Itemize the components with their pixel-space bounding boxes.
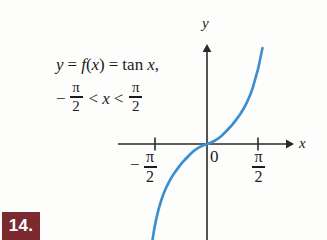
y-axis-label: y xyxy=(202,15,209,32)
domain-right-fraction: π 2 xyxy=(129,80,142,114)
tick-left-fraction: π 2 xyxy=(144,149,157,185)
tick-right-fraction: π 2 xyxy=(252,149,265,185)
equation-comma: , xyxy=(155,56,159,73)
equation-arg-x: x xyxy=(92,56,100,73)
plot-svg xyxy=(0,0,327,240)
equation-y: y xyxy=(56,56,64,73)
tick-left-numerator: π xyxy=(144,149,156,166)
equation-tan: tan xyxy=(122,56,143,73)
domain-left-numerator: π xyxy=(70,80,82,96)
equation-paren-close: ) xyxy=(99,56,105,73)
figure-container: y = f ( x ) = tan x , − π 2 < x < π 2 xyxy=(0,0,327,240)
equation-tan-arg: x xyxy=(147,56,155,73)
tick-left-denominator: 2 xyxy=(144,168,156,185)
domain-less-than-1: < xyxy=(89,90,99,107)
origin-label: 0 xyxy=(210,147,219,167)
equation-equals-2: = xyxy=(109,56,119,73)
domain-less-than-2: < xyxy=(114,90,124,107)
domain-variable: x xyxy=(102,90,110,107)
domain-left-fraction: π 2 xyxy=(70,80,83,114)
tick-right-denominator: 2 xyxy=(253,168,265,185)
domain-right-denominator: 2 xyxy=(130,98,142,114)
tick-minus-sign: − xyxy=(130,155,140,175)
tick-right-numerator: π xyxy=(252,149,264,166)
x-axis-label: x xyxy=(299,135,306,152)
domain-left-denominator: 2 xyxy=(70,98,82,114)
domain-right-numerator: π xyxy=(130,80,142,96)
equation-equals-1: = xyxy=(68,56,78,73)
problem-number-badge: 14. xyxy=(2,212,40,240)
tick-label-neg-half-pi: − π 2 xyxy=(130,150,159,186)
function-equation-line: y = f ( x ) = tan x , xyxy=(56,52,216,76)
tick-label-pos-half-pi: π 2 xyxy=(250,150,267,186)
domain-inequality-line: − π 2 < x < π 2 xyxy=(56,81,216,115)
function-definition: y = f ( x ) = tan x , − π 2 < x < π 2 xyxy=(56,52,216,115)
domain-minus-sign: − xyxy=(56,90,66,107)
